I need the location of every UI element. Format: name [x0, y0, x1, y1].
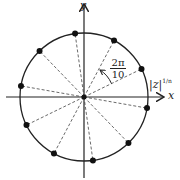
- root-point: [144, 105, 150, 111]
- origin-point: [82, 95, 87, 100]
- angle-numerator: 2π: [108, 57, 128, 68]
- root-point: [51, 151, 57, 157]
- root-point: [37, 48, 43, 54]
- dashed-radius: [75, 34, 84, 97]
- dashed-radius: [84, 97, 147, 108]
- dashed-radius: [54, 97, 84, 154]
- dashed-radius: [84, 97, 128, 143]
- dashed-radius: [26, 97, 84, 125]
- radius-label-exponent: 1/n: [162, 77, 172, 84]
- x-axis-label: x: [168, 89, 174, 102]
- root-point: [18, 83, 24, 89]
- angle-denominator: 10: [108, 69, 128, 80]
- root-point: [139, 66, 145, 72]
- dashed-radius: [21, 86, 84, 97]
- roots-diagram: y x 2π 10 |z|1/n: [0, 0, 180, 180]
- dashed-radius: [84, 97, 93, 160]
- y-axis-label: y: [80, 0, 86, 12]
- root-point: [111, 37, 117, 43]
- radius-label: |z|1/n: [149, 77, 172, 91]
- angle-label: 2π 10: [108, 57, 128, 80]
- dashed-radius: [40, 51, 84, 97]
- root-point: [125, 140, 131, 146]
- root-point: [23, 122, 29, 128]
- root-point: [72, 31, 78, 37]
- radius-label-base: |z|: [149, 78, 162, 91]
- root-point: [90, 157, 96, 163]
